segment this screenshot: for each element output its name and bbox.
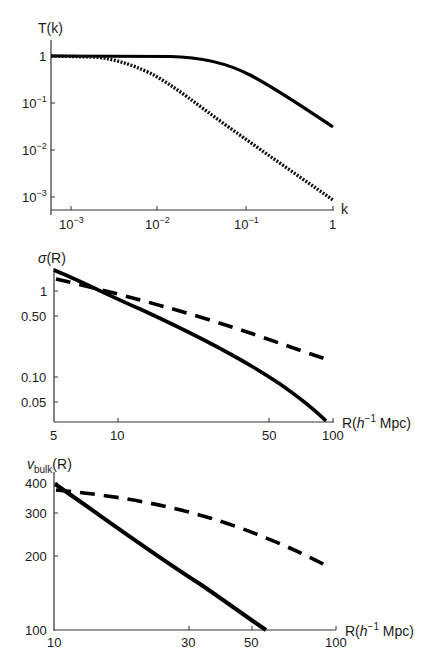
y-tick-label: 1	[39, 49, 46, 64]
x-axis-label: R(h−1 Mpc)	[345, 621, 414, 639]
x-tick-label: 5	[50, 428, 57, 443]
x-tick-label: 1	[329, 217, 336, 232]
x-tick-label: 30	[181, 635, 195, 650]
y-tick-label: 0.10	[21, 370, 46, 385]
y-tick-label: 10−3	[22, 188, 47, 205]
y-tick-label: 0.50	[21, 309, 46, 324]
y-tick-label: 400	[25, 476, 47, 491]
y-axis-label: T(k)	[38, 20, 63, 36]
x-tick-label: 10	[47, 635, 61, 650]
x-tick-label: 10−2	[145, 215, 170, 232]
y-tick-label: 100	[25, 623, 47, 638]
x-axis-label: k	[341, 201, 349, 217]
series-solid	[54, 270, 326, 421]
series-solid	[51, 56, 333, 127]
series-dotted	[51, 56, 333, 200]
x-tick-label: 10−3	[59, 215, 84, 232]
x-tick-label: 100	[325, 635, 347, 650]
x-axis-label: R(h−1 Mpc)	[342, 413, 411, 431]
figure: T(k) 1 10−1 10−2 10−3 10−3 10−2 10−1 1 k	[0, 0, 440, 672]
panel-transfer-function: T(k) 1 10−1 10−2 10−3 10−3 10−2 10−1 1 k	[22, 20, 349, 232]
y-ticks: 1 0.50 0.10 0.05	[21, 284, 58, 410]
y-tick-label: 0.05	[21, 395, 46, 410]
y-tick-label: 10−1	[22, 94, 47, 111]
series-dashed	[56, 490, 327, 566]
y-axis-label: vbulk(R)	[27, 456, 72, 475]
x-tick-label: 10	[110, 428, 124, 443]
x-tick-label: 50	[244, 635, 258, 650]
panel-sigma: σ(R) 1 0.50 0.10 0.05 5 10 50 100 R(h−1 …	[21, 250, 411, 443]
y-tick-label: 300	[25, 506, 47, 521]
y-tick-label: 10−2	[22, 141, 47, 158]
x-tick-label: 10−1	[234, 215, 259, 232]
x-tick-label: 100	[322, 428, 344, 443]
y-axis-label: σ(R)	[38, 250, 66, 266]
x-tick-label: 50	[262, 428, 276, 443]
y-ticks: 400 300 200 100	[25, 476, 58, 638]
panel-vbulk: vbulk(R) 400 300 200 100 10 30 50 100 R(…	[25, 456, 414, 650]
y-tick-label: 1	[40, 284, 47, 299]
y-tick-label: 200	[25, 549, 47, 564]
y-ticks: 1 10−1 10−2 10−3	[22, 49, 55, 205]
